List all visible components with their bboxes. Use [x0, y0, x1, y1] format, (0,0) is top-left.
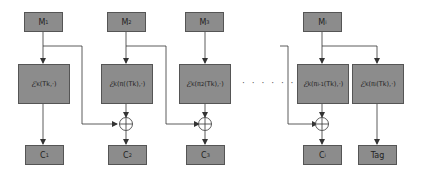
xor-icon [199, 118, 212, 131]
ellipsis: · · · · · · [242, 78, 295, 88]
input-box-m1: M1 [24, 12, 63, 32]
encryption-box-3: ℰK(π2(Tk),·) [179, 64, 231, 104]
arrow-mi-etag [322, 46, 377, 63]
xor-icon [316, 118, 329, 131]
output-box-c2: C2 [108, 145, 147, 165]
xor-icon [120, 118, 133, 131]
output-box-tag: Tag [358, 145, 397, 165]
input-box-mi: Mi [303, 12, 342, 32]
input-box-m3: M3 [185, 12, 224, 32]
encryption-box-2: ℰK(π((Tk),·) [101, 64, 153, 104]
input-box-m2: M2 [107, 12, 146, 32]
encryption-box-tag: ℰK(πi(Tk),·) [352, 64, 404, 104]
encryption-box-i: ℰK(πi-1(Tk),·) [297, 64, 349, 104]
output-box-c1: C1 [25, 145, 64, 165]
output-box-ci: Ci [303, 145, 342, 165]
encryption-box-1: ℰK(Tk,·) [18, 64, 70, 104]
output-box-c3: C3 [186, 145, 225, 165]
